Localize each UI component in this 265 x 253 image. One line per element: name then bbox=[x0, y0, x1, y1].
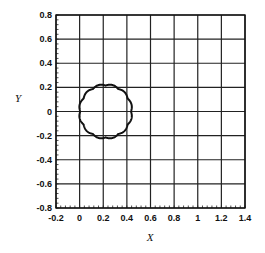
x-tick-label: -0.2 bbox=[48, 213, 64, 223]
x-tick-label: 1.2 bbox=[215, 213, 228, 223]
x-tick-label: 0.4 bbox=[121, 213, 134, 223]
y-tick-label: -0.8 bbox=[36, 203, 52, 213]
x-tick-label: 0.2 bbox=[97, 213, 110, 223]
y-tick-label: -0.6 bbox=[36, 179, 52, 189]
y-tick-label: 0.6 bbox=[39, 34, 52, 44]
y-tick-label: 0.4 bbox=[39, 58, 52, 68]
y-tick-label: 0 bbox=[47, 107, 52, 117]
x-tick-label: 0.8 bbox=[168, 213, 181, 223]
y-tick-labels: 0.80.60.40.20-0.2-0.4-0.6-0.8 bbox=[36, 10, 52, 213]
y-tick-label: -0.4 bbox=[36, 155, 52, 165]
x-tick-label: 0 bbox=[77, 213, 82, 223]
chart: -0.200.20.40.60.811.21.4 0.80.60.40.20-0… bbox=[0, 0, 265, 253]
x-tick-label: 0.6 bbox=[144, 213, 157, 223]
y-axis-label: Y bbox=[15, 92, 23, 104]
grid-lines bbox=[56, 15, 245, 208]
x-axis-label: X bbox=[146, 231, 155, 243]
y-tick-label: 0.8 bbox=[39, 10, 52, 20]
x-tick-labels: -0.200.20.40.60.811.21.4 bbox=[48, 213, 251, 223]
y-tick-label: 0.2 bbox=[39, 82, 52, 92]
x-tick-label: 1.4 bbox=[239, 213, 252, 223]
y-tick-label: -0.2 bbox=[36, 131, 52, 141]
x-tick-label: 1 bbox=[195, 213, 200, 223]
